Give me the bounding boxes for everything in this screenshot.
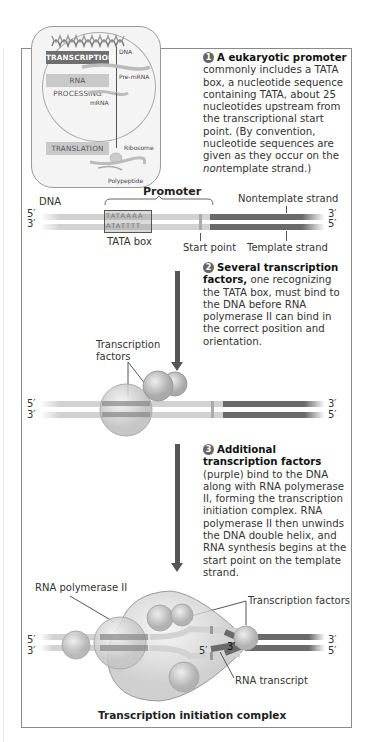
step-heading: Additional transcription factors [203, 444, 321, 467]
step-number-badge: 3 [203, 444, 214, 455]
three-prime-end: 3′ [27, 645, 36, 656]
start-point-mark [211, 401, 214, 418]
tata-sequence-top: TATAAAA [106, 212, 144, 220]
dna-label: DNA [119, 48, 132, 55]
template-pointer [286, 231, 287, 241]
three-prime-end: 3′ [27, 218, 36, 229]
three-prime-end: 3′ [328, 398, 337, 409]
five-prime-end: 5′ [328, 409, 337, 420]
rna-three-prime: 3′ [227, 641, 236, 652]
nontemplate-strand-dark [210, 214, 325, 220]
transcription-factors-pair [141, 370, 193, 402]
nontemplate-strand-label: Nontemplate strand [238, 193, 338, 204]
five-prime-end: 5′ [27, 398, 36, 409]
nontemplate-pointer [286, 206, 287, 213]
dna-label: DNA [39, 196, 61, 207]
start-point-mark [199, 214, 202, 230]
template-strand-label: Template strand [247, 242, 328, 253]
process-arrow-2 [175, 444, 180, 564]
page-margin-line [3, 48, 4, 742]
five-prime-end: 5′ [27, 634, 36, 645]
rna-transcript-label: RNA transcript [235, 675, 308, 686]
template-strand-dark [210, 224, 325, 230]
three-prime-end: 3′ [27, 409, 36, 420]
promoter-bracket [104, 196, 214, 206]
complex-caption: Transcription initiation complex [98, 709, 286, 721]
step-heading: A eukaryotic promoter [217, 52, 347, 63]
tata-box-label: TATA box [107, 236, 152, 247]
tata-sequence-bottom: ATATTTT [106, 222, 141, 230]
pre-mrna-label: Pre-mRNA [119, 73, 149, 80]
polypeptide-label: Polypeptide [108, 177, 143, 184]
stage-rna-processing: RNA PROCESSING [46, 74, 109, 87]
start-point-arrow [200, 233, 201, 241]
rna-five-prime: 5′ [199, 645, 208, 656]
mrna-strand [88, 89, 128, 97]
start-point-label: Start point [183, 242, 236, 253]
transcription-initiation-complex [40, 585, 330, 715]
ribosome-icon [88, 150, 148, 178]
step-number-badge: 2 [203, 262, 214, 273]
nontemplate-strand-dark [223, 401, 325, 407]
step-1-text: 1A eukaryotic promoter commonly includes… [203, 52, 349, 175]
dna-helix-icon [52, 34, 128, 48]
arrow-mrna [116, 93, 117, 148]
process-arrow-1 [175, 271, 180, 363]
step-number-badge: 1 [203, 52, 214, 63]
pre-mrna-strand [82, 62, 150, 72]
template-strand-dark [223, 412, 325, 418]
step-2-text: 2Several transcription factors, one reco… [203, 262, 349, 348]
mrna-label: mRNA [90, 99, 109, 106]
five-prime-end: 5′ [328, 218, 337, 229]
step-3-text: 3Additional transcription factors (purpl… [203, 444, 349, 579]
transcription-factors-label: Transcription factors [96, 339, 158, 363]
